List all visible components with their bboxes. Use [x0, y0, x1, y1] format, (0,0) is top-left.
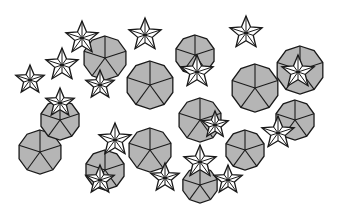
tiling-figure: [0, 0, 345, 222]
decagon-tile: [226, 130, 264, 170]
star-tile: [46, 48, 78, 79]
decagon-tile: [232, 64, 278, 112]
star-tile: [99, 123, 131, 154]
star-tile: [230, 16, 262, 47]
star-tile: [16, 65, 45, 92]
decagon-tile: [183, 167, 217, 203]
star-tile: [129, 18, 161, 49]
decagon-tile: [127, 61, 173, 109]
star-tile: [214, 165, 243, 192]
